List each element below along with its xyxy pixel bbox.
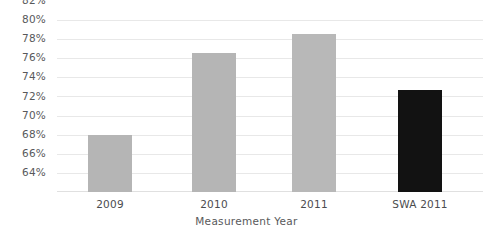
bars-layer [57, 20, 483, 192]
x-axis-title: Measurement Year [0, 215, 493, 227]
x-axis-tick-label-2009: 2009 [96, 198, 124, 210]
x-axis-tick-label-2011: 2011 [300, 198, 328, 210]
y-axis-tick-label: 70% [6, 109, 46, 121]
bar-2011[interactable] [292, 34, 336, 192]
y-axis-tick-label: 78% [6, 32, 46, 44]
y-axis-tick-label: 72% [6, 90, 46, 102]
y-axis-tick-label: 68% [6, 128, 46, 140]
bar-chart: 82% 80% 78% 76% 74% 72% 70% 68% 66% 64% [0, 0, 493, 239]
x-axis-tick-label-swa-2011: SWA 2011 [392, 198, 447, 210]
y-axis-tick-label: 80% [6, 13, 46, 25]
plot-area [57, 20, 483, 192]
bar-2009[interactable] [88, 135, 132, 192]
y-axis-tick-label: 82% [6, 0, 46, 6]
bar-2010[interactable] [192, 53, 236, 192]
y-axis-tick-label: 74% [6, 70, 46, 82]
bar-swa-2011[interactable] [398, 90, 442, 192]
x-axis-tick-label-2010: 2010 [200, 198, 228, 210]
y-axis-tick-label: 76% [6, 51, 46, 63]
y-axis-tick-label: 66% [6, 147, 46, 159]
y-axis-tick-label: 64% [6, 166, 46, 178]
